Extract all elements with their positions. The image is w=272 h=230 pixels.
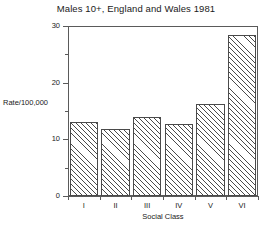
bars-layer <box>68 26 258 196</box>
y-tick-label: 0 <box>20 192 60 200</box>
chart-title: Males 10+, England and Wales 1981 <box>0 3 272 14</box>
x-tick-mark <box>163 196 164 200</box>
y-tick-mark <box>63 26 68 27</box>
bar-ii <box>101 129 130 196</box>
y-minor-tick-mark <box>65 54 68 55</box>
y-minor-tick-mark <box>65 111 68 112</box>
y-axis-label: Rate/100,000 <box>3 98 48 107</box>
y-tick-label: 20 <box>20 79 60 87</box>
x-tick-mark <box>100 196 101 200</box>
bar-iii <box>133 117 162 196</box>
x-tick-mark <box>131 196 132 200</box>
bar-iv <box>165 124 194 196</box>
x-tick-mark <box>68 196 69 200</box>
bar-v <box>196 104 225 196</box>
x-tick-mark <box>258 196 259 200</box>
y-tick-label: 30 <box>20 22 60 30</box>
x-axis-label: Social Class <box>68 212 258 221</box>
x-tick-mark <box>226 196 227 200</box>
bar-vi <box>228 35 257 197</box>
y-minor-tick-mark <box>65 168 68 169</box>
y-tick-mark <box>63 139 68 140</box>
y-tick-mark <box>63 83 68 84</box>
chart-figure: Males 10+, England and Wales 1981 010203… <box>0 0 272 230</box>
x-tick-mark <box>195 196 196 200</box>
y-tick-label: 10 <box>20 135 60 143</box>
bar-i <box>70 122 99 196</box>
x-tick-label-vi: VI <box>222 201 262 210</box>
y-axis-line <box>68 26 69 197</box>
